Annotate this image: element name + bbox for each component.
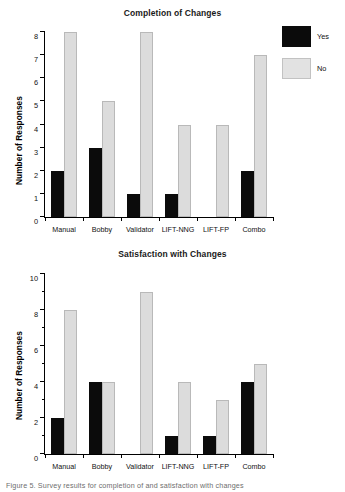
legend-item-no: No xyxy=(282,58,329,79)
y-axis-tick xyxy=(40,54,45,55)
chart-satisfaction-with-changes: Satisfaction with Changes Number of Resp… xyxy=(0,240,345,478)
y-axis-tick xyxy=(40,147,45,148)
x-axis-tick xyxy=(121,454,122,458)
chart-title: Satisfaction with Changes xyxy=(0,249,345,259)
y-axis-tick xyxy=(40,273,45,274)
x-axis-tick xyxy=(159,454,160,458)
chart-legend: Yes No xyxy=(282,26,329,90)
chart-title: Completion of Changes xyxy=(0,8,345,18)
bar-bobby-no xyxy=(102,382,115,454)
x-axis-category-label: LIFT-FP xyxy=(203,462,229,471)
x-axis-tick xyxy=(83,217,84,221)
x-axis-category-label: Manual xyxy=(52,225,76,234)
x-axis-tick xyxy=(159,217,160,221)
y-axis-tick xyxy=(40,170,45,171)
x-axis-tick xyxy=(83,454,84,458)
y-axis-tick xyxy=(40,31,45,32)
legend-item-yes: Yes xyxy=(282,26,329,47)
y-axis-tick xyxy=(40,381,45,382)
bar-bobby-no xyxy=(102,101,115,217)
y-axis-tick xyxy=(40,124,45,125)
bar-combo-no xyxy=(254,364,267,454)
bar-lift-nng-yes xyxy=(165,194,178,217)
bar-bobby-yes xyxy=(89,382,102,454)
bar-lift-nng-yes xyxy=(165,436,178,454)
x-axis-category-label: LIFT-FP xyxy=(203,225,229,234)
y-axis-minor-tick xyxy=(42,363,45,364)
bar-bobby-yes xyxy=(89,148,102,217)
x-axis-tick xyxy=(197,217,198,221)
legend-swatch-no xyxy=(282,58,311,79)
bar-manual-no xyxy=(64,32,77,217)
bar-manual-no xyxy=(64,310,77,454)
chart-completion-of-changes: Completion of Changes Number of Response… xyxy=(0,0,345,246)
y-axis-minor-tick xyxy=(42,435,45,436)
bar-lift-fp-yes xyxy=(203,436,216,454)
bar-lift-nng-no xyxy=(178,125,191,218)
x-axis-category-label: LIFT-NNG xyxy=(162,225,195,234)
plot-area: 012345678ManualBobbyValidatorLIFT-NNGLIF… xyxy=(44,32,273,218)
x-axis-tick xyxy=(45,217,46,221)
bar-combo-no xyxy=(254,55,267,217)
x-axis-category-label: LIFT-NNG xyxy=(162,462,195,471)
x-axis-tick xyxy=(235,454,236,458)
y-axis-label: Number of Responses xyxy=(14,96,24,185)
x-axis-category-label: Bobby xyxy=(92,225,112,234)
bar-lift-fp-no xyxy=(216,400,229,454)
x-axis-category-label: Manual xyxy=(52,462,76,471)
y-axis-label: Number of Responses xyxy=(14,331,24,420)
figure-caption: Figure 5. Survey results for completion … xyxy=(6,481,339,492)
y-axis-tick xyxy=(40,417,45,418)
legend-swatch-yes xyxy=(282,26,311,47)
x-axis-tick xyxy=(273,217,274,221)
bar-lift-nng-no xyxy=(178,382,191,454)
x-axis-category-label: Bobby xyxy=(92,462,112,471)
x-axis-category-label: Combo xyxy=(242,225,265,234)
y-axis-tick xyxy=(40,193,45,194)
x-axis-tick xyxy=(273,454,274,458)
bar-validator-no xyxy=(140,32,153,217)
y-axis-tick xyxy=(40,77,45,78)
x-axis-tick xyxy=(121,217,122,221)
bar-validator-yes xyxy=(127,194,140,217)
bar-combo-yes xyxy=(241,382,254,454)
x-axis-tick xyxy=(197,454,198,458)
legend-label-no: No xyxy=(317,64,326,73)
x-axis-category-label: Combo xyxy=(242,462,265,471)
legend-label-yes: Yes xyxy=(317,32,329,41)
y-axis-tick xyxy=(40,100,45,101)
bar-manual-yes xyxy=(51,418,64,454)
bar-combo-yes xyxy=(241,171,254,217)
y-axis-tick xyxy=(40,309,45,310)
plot-area: 0246810ManualBobbyValidatorLIFT-NNGLIFT-… xyxy=(44,274,273,455)
y-axis-tick xyxy=(40,345,45,346)
bar-manual-yes xyxy=(51,171,64,217)
bar-validator-no xyxy=(140,292,153,454)
x-axis-tick xyxy=(235,217,236,221)
y-axis-minor-tick xyxy=(42,399,45,400)
y-axis-minor-tick xyxy=(42,327,45,328)
y-axis-minor-tick xyxy=(42,291,45,292)
bar-lift-fp-no xyxy=(216,125,229,218)
x-axis-category-label: Validator xyxy=(126,462,154,471)
x-axis-tick xyxy=(45,454,46,458)
x-axis-category-label: Validator xyxy=(126,225,154,234)
